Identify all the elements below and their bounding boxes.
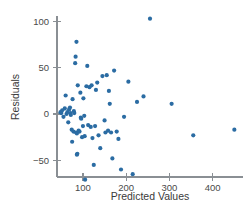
scatter-point bbox=[70, 97, 74, 101]
y-tick-label: 100 bbox=[33, 16, 49, 27]
y-tick-label: 0 bbox=[44, 108, 49, 119]
scatter-point bbox=[94, 88, 98, 92]
scatter-point bbox=[110, 156, 114, 160]
scatter-point bbox=[83, 134, 87, 138]
y-tick-label: −50 bbox=[33, 155, 49, 166]
scatter-point bbox=[141, 94, 145, 98]
scatter-point bbox=[98, 146, 102, 150]
y-axis-title: Residuals bbox=[9, 74, 21, 120]
scatter-point bbox=[119, 167, 123, 171]
scatter-point bbox=[73, 61, 77, 65]
scatter-point bbox=[107, 89, 111, 93]
scatter-point bbox=[108, 102, 112, 106]
scatter-point bbox=[74, 40, 78, 44]
scatter-point bbox=[81, 124, 85, 128]
scatter-point bbox=[116, 137, 120, 141]
x-tick-label: 400 bbox=[205, 182, 221, 193]
x-tick-label: 100 bbox=[75, 182, 91, 193]
scatter-point bbox=[89, 125, 93, 129]
y-axis: −50050100 bbox=[33, 16, 61, 177]
scatter-point bbox=[92, 163, 96, 167]
scatter-point bbox=[102, 118, 106, 122]
scatter-point bbox=[83, 178, 87, 182]
scatter-point bbox=[170, 102, 174, 106]
scatter-point bbox=[74, 55, 78, 59]
residual-scatter-chart: −50050100 100200300400 Predicted Values … bbox=[0, 0, 250, 206]
scatter-point bbox=[68, 105, 72, 109]
data-points-layer bbox=[58, 17, 236, 182]
scatter-point bbox=[90, 83, 94, 87]
scatter-point bbox=[191, 133, 195, 137]
scatter-point bbox=[70, 140, 74, 144]
scatter-point bbox=[66, 120, 70, 124]
scatter-point bbox=[232, 128, 236, 132]
scatter-point bbox=[78, 91, 82, 95]
scatter-point bbox=[77, 129, 81, 133]
scatter-point bbox=[95, 80, 99, 84]
y-tick-label: 50 bbox=[38, 62, 49, 73]
scatter-point bbox=[105, 73, 109, 77]
scatter-point bbox=[115, 129, 119, 133]
scatter-point bbox=[64, 93, 68, 97]
scatter-point bbox=[63, 106, 67, 110]
scatter-point bbox=[72, 111, 76, 115]
scatter-point bbox=[90, 136, 94, 140]
scatter-point bbox=[93, 124, 97, 128]
scatter-point bbox=[126, 80, 130, 84]
scatter-point bbox=[131, 172, 135, 176]
scatter-point bbox=[85, 64, 89, 68]
scatter-plot-canvas: −50050100 100200300400 Predicted Values … bbox=[0, 0, 250, 206]
scatter-point bbox=[122, 115, 126, 119]
x-axis-title: Predicted Values bbox=[111, 190, 190, 202]
scatter-point bbox=[96, 133, 100, 137]
scatter-point bbox=[76, 83, 80, 87]
scatter-point bbox=[82, 114, 86, 118]
scatter-point bbox=[112, 68, 116, 72]
scatter-point bbox=[109, 130, 113, 134]
scatter-point bbox=[148, 17, 152, 21]
scatter-point bbox=[81, 96, 85, 100]
scatter-point bbox=[135, 100, 139, 104]
scatter-point bbox=[75, 152, 79, 156]
scatter-point bbox=[100, 74, 104, 78]
